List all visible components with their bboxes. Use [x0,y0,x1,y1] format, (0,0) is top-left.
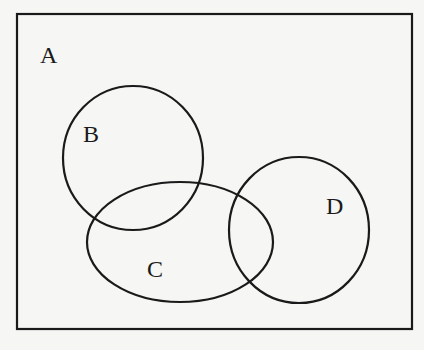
label-a: A [40,42,58,68]
venn-diagram: A B C D [0,0,424,350]
label-b: B [83,121,99,147]
set-d-circle [229,157,369,303]
label-c: C [147,256,163,282]
set-b-circle [63,86,203,230]
label-d: D [326,193,343,219]
universe-rectangle-a [17,14,412,329]
set-c-ellipse [87,182,273,302]
